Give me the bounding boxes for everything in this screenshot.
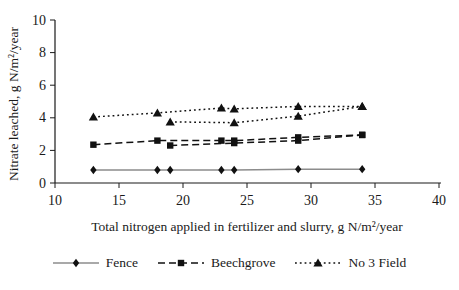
legend-item-fence: Fence xyxy=(53,255,138,271)
svg-text:2: 2 xyxy=(39,143,46,158)
svg-text:6: 6 xyxy=(39,78,46,93)
svg-text:25: 25 xyxy=(240,193,254,208)
fence-line-marker-icon xyxy=(53,256,99,270)
svg-text:8: 8 xyxy=(39,45,46,60)
beechgrove-line-marker-icon xyxy=(158,256,204,270)
svg-text:30: 30 xyxy=(304,193,318,208)
chart-plot-area: 101520253035400246810 xyxy=(0,0,459,290)
legend: Fence Beechgrove No 3 Field xyxy=(0,255,459,271)
legend-label-no3field: No 3 Field xyxy=(348,255,406,271)
legend-item-beechgrove: Beechgrove xyxy=(158,255,275,271)
y-axis-title: Nitrate leached, g N/m²/year xyxy=(6,20,22,188)
svg-text:0: 0 xyxy=(39,176,46,191)
legend-label-fence: Fence xyxy=(106,255,138,271)
svg-text:35: 35 xyxy=(368,193,382,208)
svg-text:15: 15 xyxy=(112,193,126,208)
legend-label-beechgrove: Beechgrove xyxy=(211,255,275,271)
x-axis-title: Total nitrogen applied in fertilizer and… xyxy=(55,219,439,235)
svg-text:4: 4 xyxy=(39,110,46,125)
svg-text:10: 10 xyxy=(48,193,62,208)
legend-item-no3field: No 3 Field xyxy=(295,255,406,271)
svg-text:10: 10 xyxy=(32,13,46,28)
svg-text:40: 40 xyxy=(432,193,446,208)
chart-figure: 101520253035400246810 Nitrate leached, g… xyxy=(0,0,459,290)
no3field-line-marker-icon xyxy=(295,256,341,270)
svg-text:20: 20 xyxy=(176,193,190,208)
